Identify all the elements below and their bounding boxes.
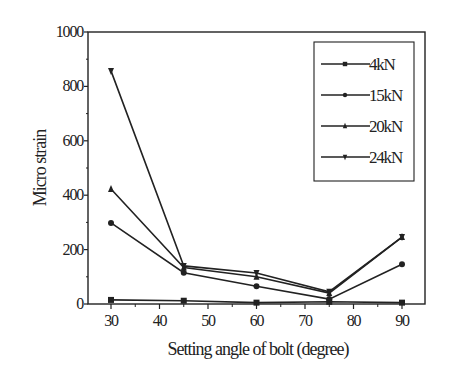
square-marker <box>108 297 114 303</box>
square-marker <box>399 300 405 306</box>
x-axis-label: Setting angle of bolt (degree) <box>168 339 350 360</box>
square-marker <box>254 300 260 306</box>
circle-marker <box>254 283 260 289</box>
circle-marker <box>343 93 347 97</box>
circle-marker <box>399 261 405 267</box>
y-tick-label: 0 <box>76 295 84 312</box>
circle-marker <box>108 220 114 226</box>
legend-label: 4kN <box>369 55 396 74</box>
x-tick-label: 90 <box>395 312 410 329</box>
x-tick-label: 40 <box>153 312 168 329</box>
y-axis: 02004006008001000 <box>56 23 88 312</box>
x-tick-label: 60 <box>250 312 265 329</box>
x-tick-label: 70 <box>298 312 313 329</box>
y-tick-label: 200 <box>63 241 85 258</box>
triangle-down-marker <box>108 68 114 75</box>
x-tick-label: 80 <box>347 312 362 329</box>
x-tick-label: 50 <box>201 312 216 329</box>
y-tick-label: 800 <box>63 77 85 94</box>
circle-marker <box>326 296 332 302</box>
legend-label: 20kN <box>369 117 403 136</box>
legend-label: 24kN <box>369 148 403 167</box>
y-axis-label: Micro strain <box>30 129 50 206</box>
legend-label: 15kN <box>369 86 403 105</box>
circle-marker <box>181 270 187 276</box>
series-15kN <box>108 220 405 302</box>
triangle-up-marker <box>108 185 114 192</box>
series-20kN <box>108 185 405 296</box>
y-tick-label: 600 <box>63 132 85 149</box>
square-marker <box>181 298 187 304</box>
square-marker <box>343 62 347 66</box>
x-tick-label: 30 <box>104 312 119 329</box>
legend: 4kN15kN20kN24kN <box>314 42 414 181</box>
x-axis: 30405060708090 <box>104 304 410 329</box>
y-tick-label: 1000 <box>56 23 84 40</box>
y-tick-label: 400 <box>63 186 85 203</box>
line-chart: 02004006008001000 30405060708090 4kN15kN… <box>0 0 449 383</box>
